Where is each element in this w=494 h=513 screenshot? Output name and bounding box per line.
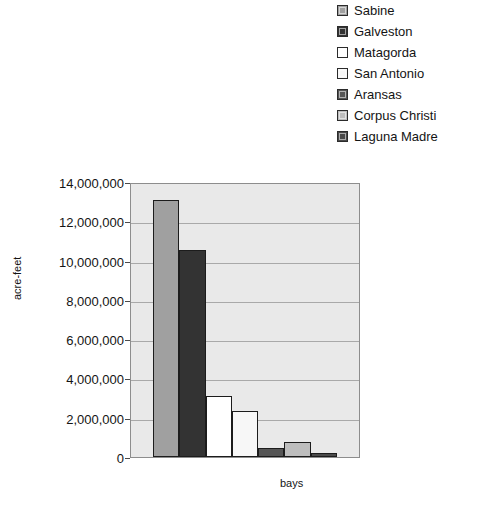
legend-item-label: Galveston — [354, 25, 413, 38]
y-axis-tick-label: 14,000,000 — [59, 177, 124, 190]
y-axis-tick-label: 6,000,000 — [66, 334, 124, 347]
legend-swatch-icon — [337, 47, 348, 58]
legend-item: Aransas — [337, 87, 438, 102]
y-axis-tick-mark — [125, 458, 130, 459]
legend-item: Laguna Madre — [337, 129, 438, 144]
bar-chart: SabineGalvestonMatagordaSan AntonioArans… — [0, 0, 494, 513]
y-axis-tick-label: 4,000,000 — [66, 373, 124, 386]
legend-item-label: San Antonio — [354, 67, 424, 80]
legend-item: Corpus Christi — [337, 108, 438, 123]
bar — [206, 396, 232, 457]
legend-item-label: Corpus Christi — [354, 109, 436, 122]
bar — [232, 411, 258, 457]
y-axis-tick-label: 2,000,000 — [66, 412, 124, 425]
legend-item: Sabine — [337, 3, 438, 18]
bar — [179, 250, 205, 457]
legend-item-label: Matagorda — [354, 46, 416, 59]
legend-swatch-icon — [337, 131, 348, 142]
y-axis-tick-label: 0 — [117, 452, 124, 465]
y-axis: 14,000,00012,000,00010,000,0008,000,0006… — [0, 183, 130, 458]
legend-item: Galveston — [337, 24, 438, 39]
legend-swatch-icon — [337, 68, 348, 79]
plot-area — [130, 183, 360, 458]
legend-item-label: Laguna Madre — [354, 130, 438, 143]
y-axis-title: acre-feet — [12, 257, 23, 300]
bar-series — [131, 184, 359, 457]
bar — [311, 453, 337, 457]
legend-swatch-icon — [337, 5, 348, 16]
legend-item-label: Sabine — [354, 4, 394, 17]
legend-item: Matagorda — [337, 45, 438, 60]
legend-swatch-icon — [337, 26, 348, 37]
legend-swatch-icon — [337, 110, 348, 121]
y-axis-tick-label: 10,000,000 — [59, 255, 124, 268]
y-axis-tick-label: 12,000,000 — [59, 216, 124, 229]
bar — [258, 448, 284, 457]
y-axis-tick-label: 8,000,000 — [66, 294, 124, 307]
x-axis-title: bays — [280, 478, 303, 489]
bar — [284, 442, 310, 457]
bar — [153, 200, 179, 457]
legend-item-label: Aransas — [354, 88, 402, 101]
legend-swatch-icon — [337, 89, 348, 100]
chart-legend: SabineGalvestonMatagordaSan AntonioArans… — [337, 3, 438, 144]
legend-item: San Antonio — [337, 66, 438, 81]
